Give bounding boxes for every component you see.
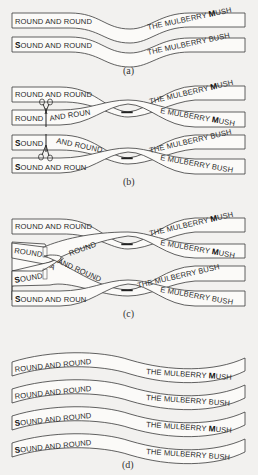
text-b1-left: ROUND AND ROUND (15, 90, 92, 99)
panel-a: ROUND AND ROUND THE MULBERRY MUSH SOUND … (12, 5, 245, 77)
caption-c: (c) (123, 308, 134, 320)
dash-1 (122, 112, 132, 113)
panel-b: ROUND AND ROUND THE MULBERRY MUSH ROUND … (12, 78, 245, 188)
dash-3 (122, 244, 132, 245)
text-c4-left: SOUND AND ROUN (15, 295, 86, 304)
panel-d: ROUND AND ROUND THE MULBERRY MUSH ROUND … (12, 353, 245, 471)
diagram-canvas: ROUND AND ROUND THE MULBERRY MUSH SOUND … (0, 0, 258, 475)
text-b2-left-a: ROUND (15, 114, 44, 123)
text-round-and-round: ROUND AND ROUND (15, 17, 92, 26)
caption-d: (d) (122, 459, 134, 471)
text-sound-and-round: SOUND AND ROUND (15, 41, 92, 50)
dash-2 (122, 158, 132, 159)
dash-4 (122, 290, 132, 291)
text-b4-left: SOUND AND ROUN (15, 163, 86, 172)
panel-c: ROUND AND ROUND THE MULBERRY MUSH ROUND … (12, 210, 245, 320)
text-b3-left-a: SOUND (15, 139, 44, 148)
caption-a: (a) (123, 65, 134, 77)
caption-b: (b) (123, 176, 135, 188)
text-c1-left: ROUND AND ROUND (15, 222, 92, 231)
